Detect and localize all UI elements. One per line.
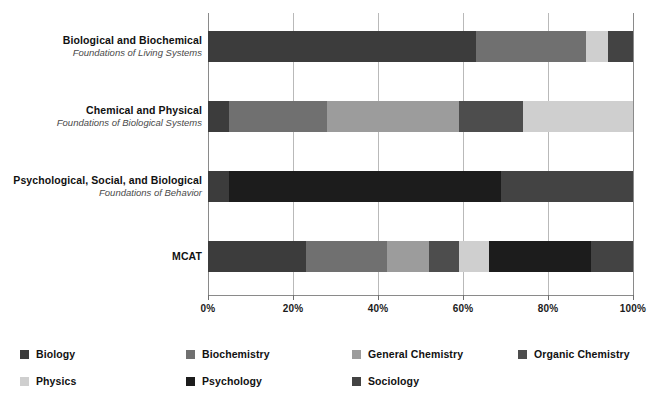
legend-label: Sociology <box>368 375 419 387</box>
legend-swatch-icon <box>20 377 29 386</box>
bar-segment-biochemistry <box>306 241 387 272</box>
bar-segment-biology <box>208 171 229 202</box>
bar-bio-biochem <box>208 31 633 62</box>
bar-segment-biochemistry <box>229 101 327 132</box>
bar-segment-sociology <box>591 241 634 272</box>
tick-mark-60pct <box>463 295 464 300</box>
category-label-mcat: MCAT <box>2 250 202 263</box>
x-tick-label: 40% <box>368 303 389 314</box>
bar-segment-physics <box>586 31 607 62</box>
bar-segment-general-chemistry <box>327 101 459 132</box>
legend-swatch-icon <box>518 350 527 359</box>
legend-item-psychology[interactable]: Psychology <box>186 375 262 387</box>
tick-mark-100pct <box>633 295 634 300</box>
tick-mark-20pct <box>293 295 294 300</box>
legend-swatch-icon <box>352 377 361 386</box>
category-label-secondary: Foundations of Biological Systems <box>2 117 202 129</box>
category-label-secondary: Foundations of Behavior <box>2 187 202 199</box>
category-label-primary: Psychological, Social, and Biological <box>2 174 202 187</box>
legend-swatch-icon <box>186 377 195 386</box>
bar-segment-sociology <box>501 171 633 202</box>
legend-label: Biochemistry <box>202 348 270 360</box>
legend-label: Biology <box>36 348 75 360</box>
legend-item-general-chemistry[interactable]: General Chemistry <box>352 348 463 360</box>
bar-segment-physics <box>523 101 634 132</box>
legend-swatch-icon <box>186 350 195 359</box>
legend-swatch-icon <box>20 350 29 359</box>
bar-segment-psychology <box>489 241 591 272</box>
tick-mark-80pct <box>548 295 549 300</box>
legend-item-sociology[interactable]: Sociology <box>352 375 419 387</box>
x-axis-line <box>208 295 634 296</box>
bar-segment-physics <box>459 241 489 272</box>
bar-segment-biology <box>208 241 306 272</box>
x-tick-label: 60% <box>453 303 474 314</box>
legend-label: General Chemistry <box>368 348 463 360</box>
legend-swatch-icon <box>352 350 361 359</box>
legend-item-biochemistry[interactable]: Biochemistry <box>186 348 270 360</box>
category-label-bio-biochem: Biological and BiochemicalFoundations of… <box>2 34 202 59</box>
bar-segment-sociology <box>608 31 634 62</box>
x-tick-label: 100% <box>620 303 646 314</box>
category-label-chem-phys: Chemical and PhysicalFoundations of Biol… <box>2 104 202 129</box>
category-label-primary: MCAT <box>2 250 202 263</box>
bar-segment-biochemistry <box>476 31 587 62</box>
bar-segment-biology <box>208 101 229 132</box>
tick-mark-40pct <box>378 295 379 300</box>
category-label-primary: Biological and Biochemical <box>2 34 202 47</box>
bar-segment-organic-chemistry <box>429 241 459 272</box>
category-label-primary: Chemical and Physical <box>2 104 202 117</box>
bar-segment-psychology <box>229 171 501 202</box>
legend-item-biology[interactable]: Biology <box>20 348 75 360</box>
stacked-bar-chart: 0%20%40%60%80%100% Biological and Bioche… <box>0 0 653 407</box>
bar-segment-general-chemistry <box>387 241 430 272</box>
category-label-psych-soc-bio: Psychological, Social, and BiologicalFou… <box>2 174 202 199</box>
legend-item-organic-chemistry[interactable]: Organic Chemistry <box>518 348 630 360</box>
x-tick-label: 0% <box>201 303 216 314</box>
bar-segment-organic-chemistry <box>459 101 523 132</box>
x-tick-label: 80% <box>538 303 559 314</box>
bar-chem-phys <box>208 101 633 132</box>
category-label-secondary: Foundations of Living Systems <box>2 47 202 59</box>
tick-mark-0pct <box>208 295 209 300</box>
x-tick-label: 20% <box>283 303 304 314</box>
gridline-100pct <box>633 13 634 295</box>
legend-item-physics[interactable]: Physics <box>20 375 76 387</box>
bar-psych-soc-bio <box>208 171 633 202</box>
legend-label: Psychology <box>202 375 262 387</box>
legend-label: Physics <box>36 375 76 387</box>
bar-segment-biology <box>208 31 476 62</box>
bar-mcat <box>208 241 633 272</box>
legend-label: Organic Chemistry <box>534 348 630 360</box>
